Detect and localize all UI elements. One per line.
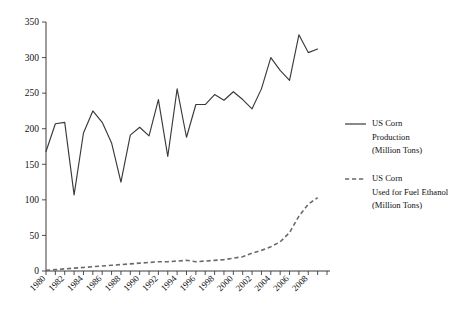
chart-figure: 050100150200250300350 198019821984198619… [0,0,462,317]
y-axis-tick-label: 100 [25,195,40,205]
y-axis-tick-label: 350 [25,17,40,27]
y-axis-tick-label: 50 [30,231,40,241]
y-axis-tick-label: 250 [25,88,40,98]
y-axis-tick-label: 200 [25,124,40,134]
legend-label-1-line-2: Production [372,132,410,142]
legend-label-1-line-1: US Corn [372,118,403,128]
legend-label-2-line-3: (Million Tons) [372,200,422,210]
legend-label-2-line-1: US Corn [372,173,403,183]
legend-label-2-line-2: Used for Fuel Ethanol [372,187,449,197]
legend-label-1-line-3: (Million Tons) [372,145,422,155]
y-axis-tick-label: 150 [25,160,40,170]
y-axis-tick-label: 300 [25,53,40,63]
